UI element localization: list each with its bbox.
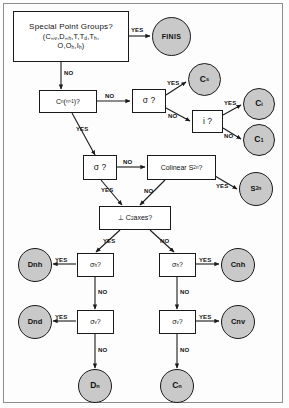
node-cn[interactable]: Cn <box>160 369 194 403</box>
start-line-3: O,Oh,Ih) <box>29 42 113 50</box>
node-sigma-h-right[interactable]: σh? <box>159 253 196 277</box>
node-perp-c2-axes[interactable]: ⊥ C2 axes? <box>99 206 171 230</box>
node-s2n[interactable]: S2n <box>239 172 273 206</box>
node-ci[interactable]: Ci <box>243 88 275 120</box>
edge-label-inversion-yes: YES <box>224 100 236 106</box>
node-dnh[interactable]: Dnh <box>18 248 52 282</box>
edge-label-sigma-h-left-yes: YES <box>55 257 67 263</box>
node-cnv[interactable]: Cnv <box>221 305 255 339</box>
edge-label-sigma-v-left-no: NO <box>98 347 107 353</box>
node-c1[interactable]: C1 <box>243 124 275 156</box>
edge-label-sigma-h-left-no: NO <box>98 289 107 295</box>
start-line-2: (C∞v,D∞h,T,Td,Th, <box>29 33 113 41</box>
node-sigma-h-left[interactable]: σh? <box>77 253 114 277</box>
node-dnd[interactable]: Dnd <box>18 305 52 339</box>
edge-label-colinear-no: NO <box>144 188 153 194</box>
node-finis[interactable]: FINIS <box>152 17 191 56</box>
edge-label-cn-yes: YES <box>76 126 88 132</box>
edge-label-sigma-v-left-yes: YES <box>55 314 67 320</box>
edge-label-start-yes: YES <box>131 27 143 33</box>
edge-label-sigma-top-no: NO <box>168 113 177 119</box>
node-sigma-top[interactable]: σ ? <box>132 89 166 113</box>
edge-label-sigma-v-right-yes: YES <box>199 314 211 320</box>
node-sigma-mid[interactable]: σ ? <box>83 155 117 180</box>
edge-label-sigma-v-right-no: NO <box>180 347 189 353</box>
node-cn-axis[interactable]: Cn(n>1)? <box>39 90 97 113</box>
node-cs[interactable]: Cs <box>188 63 221 96</box>
node-cnh[interactable]: Cnh <box>221 248 255 282</box>
node-special-point-groups[interactable]: Special Point Groups? (C∞v,D∞h,T,Td,Th, … <box>13 11 129 62</box>
start-line-1: Special Point Groups? <box>29 23 113 32</box>
edge-label-cn-no: NO <box>105 93 114 99</box>
edge-label-perp-no: NO <box>160 238 169 244</box>
edge-label-sigma-mid-yes: YES <box>101 187 113 193</box>
edge-label-sigma-h-right-yes: YES <box>199 257 211 263</box>
flowchart-page: Special Point Groups? (C∞v,D∞h,T,Td,Th, … <box>0 0 289 408</box>
edge-label-perp-yes: YES <box>103 238 115 244</box>
node-sigma-v-right[interactable]: σv? <box>159 310 196 334</box>
node-colinear-s2n[interactable]: Colinear S2n? <box>147 155 216 180</box>
node-sigma-v-left[interactable]: σv? <box>77 310 114 334</box>
node-dn[interactable]: Dn <box>78 369 112 403</box>
edge-label-sigma-h-right-no: NO <box>180 289 189 295</box>
edge-label-start-no: NO <box>64 70 73 76</box>
edge-label-sigma-top-yes: YES <box>167 80 179 86</box>
node-inversion[interactable]: i ? <box>192 110 223 133</box>
edge-label-colinear-yes: YES <box>216 183 228 189</box>
edge-label-inversion-no: NO <box>224 133 233 139</box>
edge-label-sigma-mid-no: NO <box>123 159 132 165</box>
